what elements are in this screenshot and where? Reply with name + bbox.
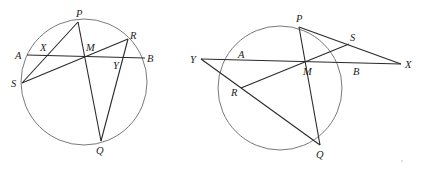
point-label-S: S	[350, 32, 356, 43]
figure-right: PSYAMBXRQ	[190, 13, 412, 160]
segment-RQ	[101, 39, 128, 141]
point-label-S: S	[11, 78, 17, 89]
point-label-A: A	[14, 50, 22, 61]
point-label-Q: Q	[316, 149, 324, 160]
point-label-X: X	[404, 59, 412, 70]
point-label-X: X	[39, 42, 47, 53]
point-label-R: R	[230, 87, 238, 98]
figure-left: PAXMRBYSQ	[11, 8, 154, 156]
point-label-P: P	[295, 13, 303, 24]
segment-RS	[241, 44, 349, 88]
speck	[401, 160, 403, 162]
point-label-B: B	[353, 66, 360, 77]
segment-PQ	[78, 22, 101, 141]
point-label-A: A	[237, 49, 245, 60]
point-label-M: M	[302, 66, 313, 77]
point-label-Y: Y	[113, 60, 120, 71]
circle	[21, 19, 147, 145]
point-label-P: P	[75, 8, 83, 19]
point-label-B: B	[147, 53, 154, 64]
point-label-R: R	[129, 30, 137, 41]
geometry-diagram: PAXMRBYSQ PSYAMBXRQ	[0, 0, 422, 171]
segment-PQ	[299, 27, 320, 145]
point-label-Q: Q	[96, 145, 104, 156]
point-label-Y: Y	[190, 54, 197, 65]
point-label-M: M	[85, 42, 96, 53]
segment-PS	[22, 22, 78, 83]
scan-artifacts	[401, 160, 403, 162]
